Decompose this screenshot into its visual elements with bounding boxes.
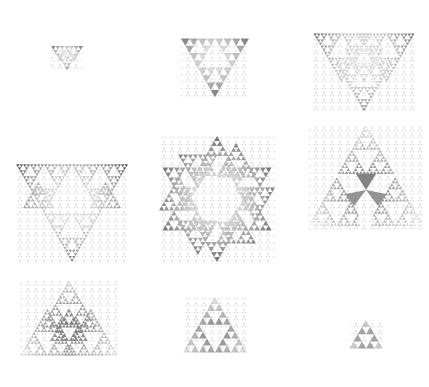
- fractal-grid: [0, 0, 429, 387]
- fractal-panel-2: [181, 38, 249, 97]
- fractal-panel-3: [314, 34, 415, 112]
- fractal-panel-4: [16, 164, 128, 262]
- fractal-panel-5: [159, 136, 275, 262]
- center-hole: [196, 181, 238, 217]
- fractal-panel-1: [51, 46, 83, 70]
- fractal-panel-9: [350, 320, 383, 349]
- fractal-panel-7: [21, 281, 118, 356]
- fractal-panel-8: [183, 297, 247, 353]
- fractal-panel-6: [309, 125, 423, 230]
